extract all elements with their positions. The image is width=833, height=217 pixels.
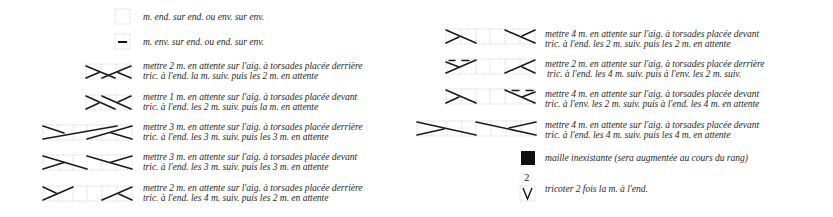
repeat-count-label: 2: [524, 172, 529, 182]
cable-2-1-back-icon: [85, 62, 133, 82]
cable-3-3-back-icon: [42, 123, 134, 143]
legend-text: m. env. sur end. ou end. sur env.: [143, 37, 264, 47]
legend-text: mettre 3 m. en attente sur l'aig. à tors…: [143, 152, 357, 173]
cable-3-3-front-icon: [42, 153, 134, 173]
cable-2-4-back-icon: [42, 184, 134, 204]
legend-line: m. end. sur end. ou env. sur env.: [143, 12, 264, 22]
legend-line: tric. à l'end. les 2 m. suiv. puis la m.…: [143, 102, 357, 112]
cable-1-2-front-icon: [85, 93, 133, 113]
legend-line: tric. à l'end. les 3 m. suiv. puis les 3…: [143, 132, 363, 142]
legend-text: mettre 4 m. en attente sur l'aig. à tors…: [545, 89, 759, 110]
legend-text: mettre 1 m. en attente sur l'aig. à tors…: [143, 92, 357, 113]
legend-line: tric. à l'end. la m. suiv. puis les 2 m.…: [143, 71, 363, 81]
legend-line: tric. à l'end. les 4 m. suiv. puis à l'e…: [545, 69, 765, 79]
legend-line: m. env. sur end. ou end. sur env.: [143, 37, 264, 47]
legend-line: tric. à l'end. les 2 m. suiv. puis les 2…: [545, 39, 759, 49]
legend-text: mettre 4 m. en attente sur l'aig. à tors…: [545, 120, 759, 141]
cable-2-4-back-purl-icon: [445, 57, 537, 77]
black-square-icon: [520, 150, 536, 166]
dash-square-icon: [114, 33, 132, 51]
legend-line: tric. à l'end. les 4 m. suiv. puis les 2…: [143, 193, 363, 203]
legend-text: maille inexistante (sera augmentée au co…: [545, 153, 748, 163]
legend-text: mettre 2 m. en attente sur l'aig. à tors…: [545, 59, 765, 80]
cable-4-2-front-icon: [445, 27, 537, 47]
v-increase-icon: [519, 185, 537, 202]
cable-4-4-front-icon: [416, 119, 538, 139]
empty-square-icon: [114, 8, 132, 26]
legend-text: mettre 3 m. en attente sur l'aig. à tors…: [143, 122, 363, 143]
legend-line: maille inexistante (sera augmentée au co…: [545, 153, 748, 163]
legend-text: mettre 2 m. en attente sur l'aig. à tors…: [143, 61, 363, 82]
legend-text: mettre 2 m. en attente sur l'aig. à tors…: [143, 183, 363, 204]
legend-text: tricoter 2 fois la m. à l'end.: [545, 184, 648, 194]
legend-line: tric. à l'env. les 2 m. suiv. puis à l'e…: [545, 99, 759, 109]
legend-line: tricoter 2 fois la m. à l'end.: [545, 184, 648, 194]
legend-text: m. end. sur end. ou env. sur env.: [143, 12, 264, 22]
legend-text: mettre 4 m. en attente sur l'aig. à tors…: [545, 29, 759, 50]
cable-4-2-front-purl-icon: [445, 87, 537, 107]
legend-line: tric. à l'end. les 3 m. suiv. puis les 3…: [143, 162, 357, 172]
legend-line: tric. à l'end. les 4 m. suiv. puis les 4…: [545, 130, 759, 140]
